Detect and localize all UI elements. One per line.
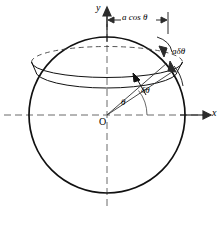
radius-line-theta-lower <box>107 72 172 115</box>
origin-label: O <box>99 117 106 127</box>
dimension-left-arrowhead <box>108 17 114 23</box>
x-axis-label: x <box>212 108 216 118</box>
horizontal-dimension-label: a cos θ <box>122 13 147 22</box>
radius-line-theta-upper <box>107 63 167 115</box>
y-axis-label: y <box>96 3 100 13</box>
x-axis-arrowhead <box>203 111 211 119</box>
theta-angle-label: θ <box>121 98 125 107</box>
geometry-figure: y x O a cos θ aδθ δθ θ <box>0 0 224 226</box>
delta-theta-label: δθ <box>141 86 150 95</box>
radius-group <box>107 63 172 115</box>
band-right-edge <box>178 62 183 71</box>
dimension-right-arrowhead <box>161 17 167 23</box>
band-width-label: aδθ <box>172 47 185 56</box>
band-width-upper-arrowhead <box>159 46 167 57</box>
axis-arrow-group <box>103 7 211 119</box>
figure-canvas <box>0 0 224 226</box>
